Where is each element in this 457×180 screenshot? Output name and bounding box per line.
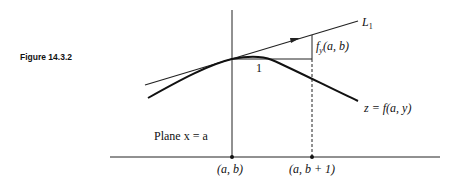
label-point-a-b: (a, b): [217, 162, 243, 176]
curve-z-f-a-y: [148, 57, 358, 101]
label-plane: Plane x = a: [154, 129, 208, 143]
point-a-b-plus-1: [310, 155, 314, 159]
arrowhead-icon: [290, 38, 300, 43]
tangent-line-l1: [145, 21, 358, 85]
label-l1: L1: [361, 15, 373, 31]
label-point-a-b-plus-1: (a, b + 1): [289, 162, 335, 176]
label-run: 1: [256, 61, 262, 75]
label-slope: fy(a, b): [316, 39, 349, 55]
point-a-b: [230, 155, 234, 159]
label-curve: z = f(a, y): [363, 101, 411, 115]
diagram-canvas: L1 fy(a, b) 1 z = f(a, y) Plane x = a (a…: [0, 0, 457, 180]
figure-14-3-2: Figure 14.3.2 L1 fy(a, b) 1 z = f(a, y) …: [0, 0, 457, 180]
